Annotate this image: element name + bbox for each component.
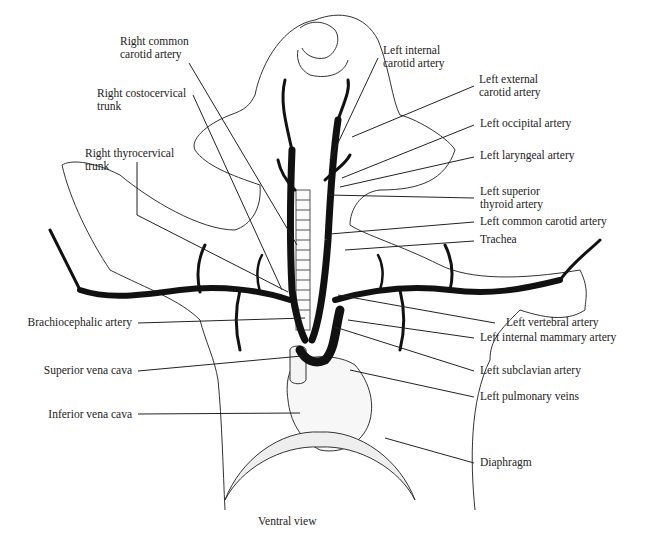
label-left-occipital-artery: Left occipital artery xyxy=(480,117,571,130)
label-diaphragm: Diaphragm xyxy=(480,456,532,469)
label-inferior-vena-cava: Inferior vena cava xyxy=(10,408,132,421)
label-left-subclavian-artery: Left subclavian artery xyxy=(480,364,581,377)
label-left-internal-carotid-artery: Left internal carotid artery xyxy=(383,44,445,70)
label-superior-vena-cava: Superior vena cava xyxy=(10,364,132,377)
label-left-external-carotid-artery: Left external carotid artery xyxy=(479,73,541,99)
diaphragm-outline xyxy=(225,432,415,500)
label-right-thyrocervical-trunk: Right thyrocervical trunk xyxy=(85,147,174,173)
diagram-artwork xyxy=(0,0,647,545)
label-left-vertebral-artery: Left vertebral artery xyxy=(506,316,599,329)
label-right-costocervical-trunk: Right costocervical trunk xyxy=(97,87,186,113)
label-right-common-carotid-artery: Right common carotid artery xyxy=(120,35,189,61)
label-left-superior-thyroid-artery: Left superior thyroid artery xyxy=(480,185,543,211)
label-left-common-carotid-artery: Left common carotid artery xyxy=(480,215,607,228)
label-left-internal-mammary-artery: Left internal mammary artery xyxy=(480,331,616,344)
label-trachea: Trachea xyxy=(480,233,517,246)
label-left-laryngeal-artery: Left laryngeal artery xyxy=(480,149,575,162)
label-left-pulmonary-veins: Left pulmonary veins xyxy=(480,390,579,403)
anatomy-diagram: Right common carotid artery Right costoc… xyxy=(0,0,647,545)
label-brachiocephalic-artery: Brachiocephalic artery xyxy=(10,316,132,329)
view-caption: Ventral view xyxy=(258,515,316,528)
